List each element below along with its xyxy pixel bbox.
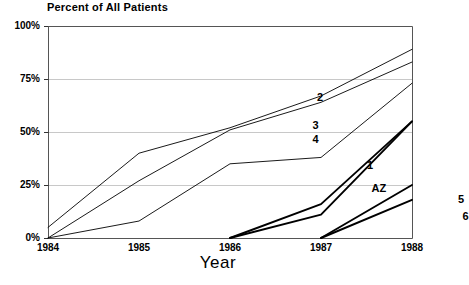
series-line-az [230,121,412,238]
series-label-az: AZ [372,182,387,194]
series-line-6 [321,200,412,238]
x-tick-label: 1987 [291,242,351,253]
y-tick-label: 50% [0,126,40,137]
series-label-4: 4 [312,133,318,145]
series-line-1 [230,121,412,238]
x-tick-label: 1988 [382,242,442,253]
series-label-5: 5 [458,193,464,205]
x-axis-title: Year [0,253,436,273]
series-line-3 [48,62,412,238]
x-tick-label: 1986 [200,242,260,253]
series-label-3: 3 [312,119,318,131]
y-tick-label: 75% [0,73,40,84]
y-tick-label: 25% [0,179,40,190]
x-tick-label: 1985 [109,242,169,253]
series-line-4 [48,83,412,238]
series-label-2: 2 [317,91,323,103]
x-tick-label: 1984 [18,242,78,253]
series-label-6: 6 [463,210,469,222]
series-line-2 [48,49,412,227]
series-label-1: 1 [367,159,373,171]
y-tick-label: 100% [0,20,40,31]
